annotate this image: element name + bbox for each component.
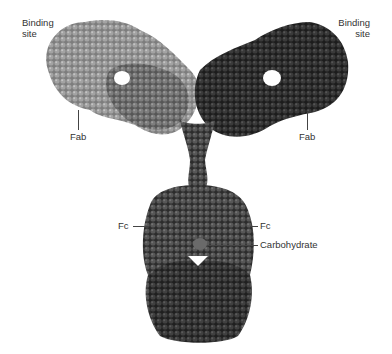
carbohydrate-patch	[193, 238, 207, 250]
label-line-2: site	[330, 28, 370, 39]
label-binding-site-left: Binding site	[22, 17, 54, 39]
leader-carbohydrate	[207, 245, 258, 246]
leader-fc-left	[133, 226, 149, 227]
label-line-1: Binding	[330, 17, 370, 28]
label-binding-site-right: Binding site	[330, 17, 370, 39]
label-fab-left: Fab	[70, 131, 86, 142]
label-line-1: Binding	[22, 17, 54, 28]
label-carbohydrate: Carbohydrate	[260, 239, 318, 250]
label-fc-left: Fc	[118, 220, 129, 231]
fc-region	[143, 185, 254, 343]
label-fc-right: Fc	[260, 220, 271, 231]
label-fab-right: Fab	[299, 131, 315, 142]
hinge-region	[180, 120, 215, 190]
leader-fc-right	[250, 226, 258, 227]
fab-right-arm	[195, 22, 348, 137]
fab-left-arm	[46, 20, 199, 134]
leader-fab-right	[307, 112, 308, 130]
leader-fab-left	[78, 110, 79, 130]
antibody-model	[0, 0, 392, 354]
label-line-2: site	[22, 28, 54, 39]
